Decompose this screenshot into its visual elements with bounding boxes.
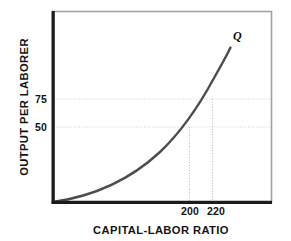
- curve-label-q: Q: [233, 29, 242, 43]
- capital-labor-output-chart: 75 50 200 220 OUTPUT PER LABORER CAPITAL…: [0, 0, 291, 241]
- y-tick-label-50: 50: [35, 121, 47, 133]
- x-axis-title: CAPITAL-LABOR RATIO: [93, 224, 229, 236]
- x-tick-label-220: 220: [207, 205, 225, 217]
- y-tick-label-75: 75: [35, 93, 47, 105]
- y-axis-title: OUTPUT PER LABORER: [18, 38, 30, 176]
- x-tick-label-200: 200: [181, 205, 199, 217]
- chart-figure: 75 50 200 220 OUTPUT PER LABORER CAPITAL…: [0, 0, 291, 241]
